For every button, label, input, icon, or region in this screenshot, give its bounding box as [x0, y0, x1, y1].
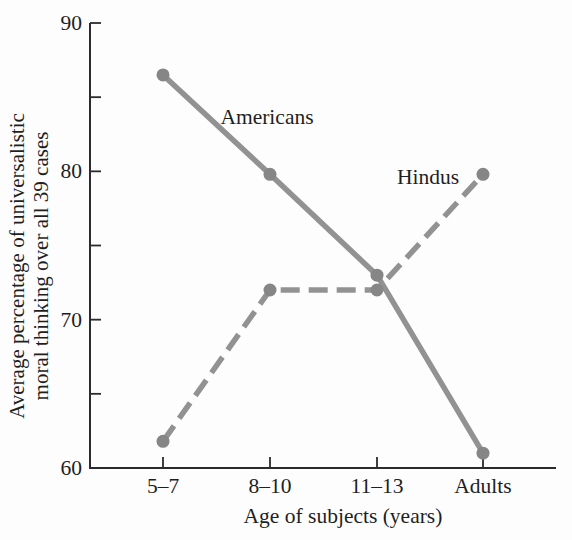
hindus-series-label: Hindus — [397, 165, 459, 189]
hindus-line — [163, 174, 483, 441]
line-chart: 908070605–78–1011–13AdultsAge of subject… — [0, 0, 572, 540]
y-axis-title-line1: Average percentage of universalistic — [5, 113, 29, 419]
americans-data-point — [157, 68, 170, 81]
americans-line — [163, 75, 483, 453]
hindus-data-point — [371, 284, 384, 297]
x-axis-title: Age of subjects (years) — [244, 504, 443, 528]
x-tick-label: 11–13 — [351, 474, 404, 498]
americans-data-point — [264, 168, 277, 181]
y-tick-label: 80 — [61, 159, 83, 183]
y-axis-title-line2: moral thinking over all 39 cases — [29, 132, 53, 401]
x-tick-label: 8–10 — [249, 474, 292, 498]
y-tick-label: 70 — [61, 308, 83, 332]
americans-data-point — [477, 447, 490, 460]
x-tick-label: Adults — [454, 474, 511, 498]
y-tick-label: 60 — [61, 456, 83, 480]
hindus-data-point — [157, 435, 170, 448]
hindus-data-point — [477, 168, 490, 181]
y-tick-label: 90 — [61, 11, 83, 35]
x-tick-label: 5–7 — [147, 474, 180, 498]
americans-data-point — [371, 269, 384, 282]
chart-figure: 908070605–78–1011–13AdultsAge of subject… — [0, 0, 572, 540]
hindus-data-point — [264, 284, 277, 297]
americans-series-label: Americans — [220, 105, 313, 129]
